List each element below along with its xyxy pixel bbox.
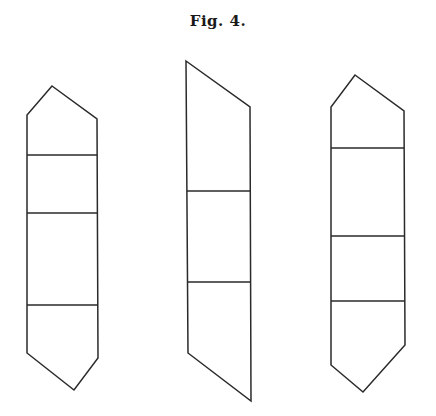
crystal-figure — [0, 0, 436, 416]
crystal-left-outline — [27, 86, 98, 390]
crystal-right — [331, 75, 405, 392]
crystal-left — [27, 86, 98, 390]
crystal-right-outline — [331, 75, 405, 392]
crystal-middle — [186, 61, 251, 401]
crystal-middle-outline — [186, 61, 251, 401]
